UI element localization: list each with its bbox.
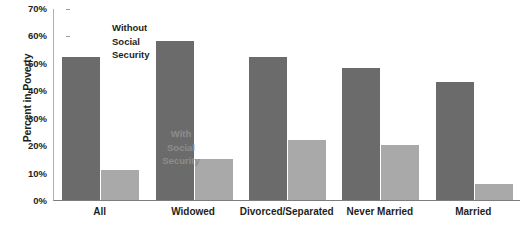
bar — [381, 145, 419, 200]
x-axis-category-label: Never Married — [333, 206, 426, 217]
series-annotation-with-social-security: With Social Security — [150, 127, 212, 168]
y-axis-tick-label: 40% — [17, 87, 47, 97]
y-axis-tick-label: 50% — [17, 59, 47, 69]
y-axis-tick-label: 70% — [17, 4, 47, 14]
y-axis-tick-label: 60% — [17, 32, 47, 42]
bar — [436, 82, 474, 200]
bar — [288, 140, 326, 200]
x-axis-category-labels: AllWidowedDivorced/SeparatedNever Marrie… — [53, 206, 520, 230]
bar — [62, 57, 100, 200]
bar — [156, 41, 194, 200]
bar-group — [241, 9, 334, 200]
y-axis-tick-label: 0% — [17, 196, 47, 206]
bar-group — [334, 9, 427, 200]
bar — [249, 57, 287, 200]
y-axis-tick-label: 10% — [17, 169, 47, 179]
bar — [342, 68, 380, 200]
bar-group — [428, 9, 521, 200]
x-axis-category-label: Widowed — [146, 206, 239, 217]
plot-area: Without Social Security With Social Secu… — [53, 9, 520, 201]
x-axis-category-label: All — [53, 206, 146, 217]
x-axis-category-label: Divorced/Separated — [240, 206, 333, 217]
series-annotation-without-social-security: Without Social Security — [112, 21, 182, 62]
y-axis-tick-label: 20% — [17, 141, 47, 151]
bar — [101, 170, 139, 200]
x-axis-category-label: Married — [427, 206, 520, 217]
poverty-bar-chart: Percent in Poverty 0%10%20%30%40%50%60%7… — [0, 0, 526, 237]
bar — [475, 184, 513, 200]
y-axis-tick-label: 30% — [17, 114, 47, 124]
y-axis-tick-labels: 0%10%20%30%40%50%60%70% — [17, 0, 47, 237]
